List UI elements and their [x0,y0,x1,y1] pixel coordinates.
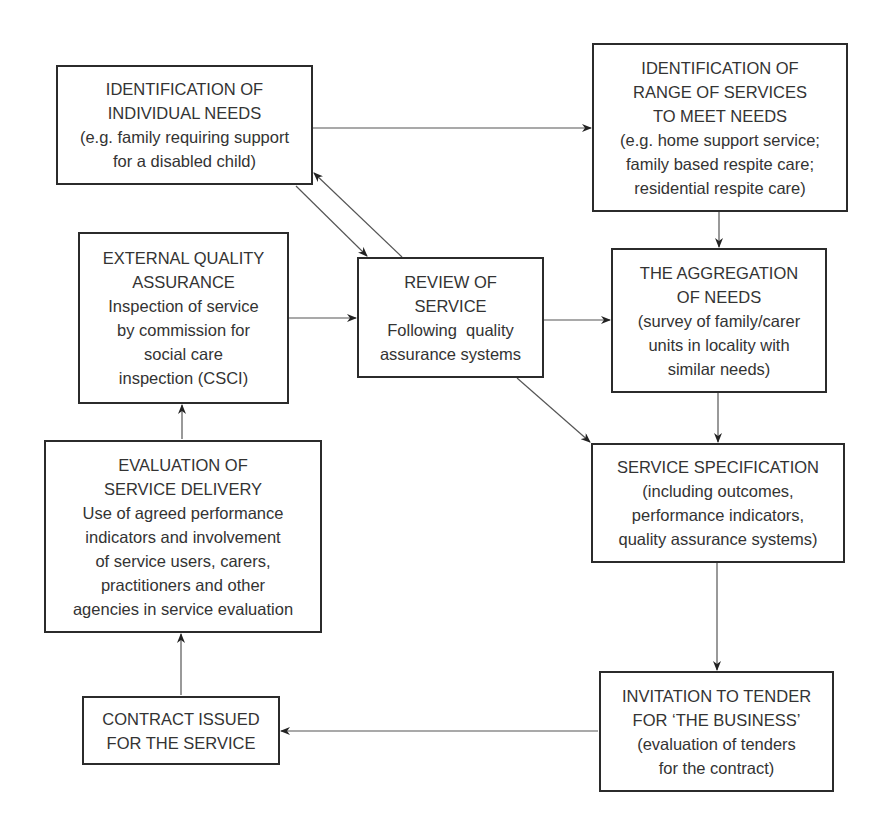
node-text-line: for the contract) [659,756,775,780]
node-text-line: INDIVIDUAL NEEDS [108,101,261,125]
node-text-line: residential respite care) [634,176,806,200]
node-text-line: IDENTIFICATION OF [641,56,798,80]
node-text-line: IDENTIFICATION OF [106,77,263,101]
node-text-line: THE AGGREGATION [640,261,798,285]
node-text-line: INVITATION TO TENDER [622,684,811,708]
node-identification-of-range-of-services: IDENTIFICATION OF RANGE OF SERVICES TO M… [592,43,848,212]
node-review-of-service: REVIEW OF SERVICE Following quality assu… [357,257,544,378]
node-text-line: (e.g. family requiring support [80,125,289,149]
node-service-specification: SERVICE SPECIFICATION (including outcome… [591,443,845,563]
node-text-line: of service users, carers, [95,549,270,573]
node-text-line: REVIEW OF [404,270,497,294]
node-text-line: assurance systems [380,342,521,366]
node-external-quality-assurance: EXTERNAL QUALITY ASSURANCE Inspection of… [78,232,289,404]
node-text-line: SERVICE [414,294,486,318]
node-text-line: by commission for [117,318,250,342]
node-text-line: TO MEET NEEDS [653,104,787,128]
node-text-line: inspection (CSCI) [119,366,248,390]
node-text-line: SERVICE DELIVERY [104,477,262,501]
arrow-review-to-individual [314,173,402,257]
node-text-line: (including outcomes, [642,479,793,503]
node-text-line: (evaluation of tenders [637,732,796,756]
node-text-line: Use of agreed performance [83,501,284,525]
node-text-line: performance indicators, [632,503,804,527]
node-evaluation-of-service-delivery: EVALUATION OF SERVICE DELIVERY Use of ag… [44,440,322,633]
node-contract-issued: CONTRACT ISSUED FOR THE SERVICE [82,696,280,765]
arrow-individual-to-review [296,186,367,256]
node-text-line: (survey of family/carer [638,309,800,333]
node-text-line: FOR ‘THE BUSINESS’ [633,708,801,732]
node-text-line: CONTRACT ISSUED [102,707,259,731]
node-text-line: quality assurance systems) [619,527,818,551]
node-text-line: ASSURANCE [132,270,235,294]
node-text-line: (e.g. home support service; [620,128,820,152]
node-text-line: FOR THE SERVICE [107,731,256,755]
node-identification-of-individual-needs: IDENTIFICATION OF INDIVIDUAL NEEDS (e.g.… [56,65,313,185]
node-invitation-to-tender: INVITATION TO TENDER FOR ‘THE BUSINESS’ … [599,671,834,792]
node-text-line: Following quality [387,318,514,342]
node-aggregation-of-needs: THE AGGREGATION OF NEEDS (survey of fami… [611,248,827,393]
node-text-line: OF NEEDS [677,285,761,309]
node-text-line: EVALUATION OF [118,453,248,477]
node-text-line: family based respite care; [626,152,814,176]
arrow-review-to-specification [517,378,590,442]
node-text-line: SERVICE SPECIFICATION [617,455,819,479]
node-text-line: practitioners and other [101,573,265,597]
node-text-line: Inspection of service [108,294,258,318]
node-text-line: units in locality with [648,333,789,357]
node-text-line: RANGE OF SERVICES [633,80,807,104]
node-text-line: indicators and involvement [85,525,280,549]
node-text-line: agencies in service evaluation [73,597,293,621]
node-text-line: social care [144,342,223,366]
node-text-line: EXTERNAL QUALITY [103,246,265,270]
node-text-line: for a disabled child) [113,149,256,173]
node-text-line: similar needs) [668,357,771,381]
